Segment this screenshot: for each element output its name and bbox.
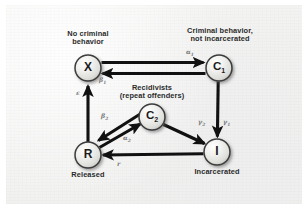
node-label-x: X xyxy=(78,60,98,74)
caption-incarcerated: Incarcerated xyxy=(185,168,249,176)
edge-c2-to-i xyxy=(164,125,205,144)
node-label-c2-sub: 2 xyxy=(154,116,158,123)
edge-c1-to-i xyxy=(217,82,218,137)
node-label-r-text: R xyxy=(84,147,93,161)
node-label-i-text: I xyxy=(215,144,218,158)
caption-no-criminal-behavior: No criminal behavior xyxy=(50,30,126,47)
rate-label-beta1: β1 xyxy=(99,76,106,85)
rate-label-alpha1: α1 xyxy=(186,48,194,57)
node-label-c2: C2 xyxy=(142,109,162,123)
node-label-x-text: X xyxy=(84,60,92,74)
caption-criminal-not-incarcerated: Criminal behavior, not incarcerated xyxy=(172,27,268,44)
rate-label-r: r xyxy=(117,160,120,167)
rate-label-alpha2: α2 xyxy=(123,134,131,143)
node-label-c1-sub: 1 xyxy=(221,67,225,74)
node-label-c2-text: C xyxy=(146,109,154,121)
rate-label-beta2: β2 xyxy=(101,112,108,121)
rate-label-epsilon: ε xyxy=(76,89,80,96)
node-label-c1: C1 xyxy=(209,60,229,74)
rate-label-gamma2: γ2 xyxy=(198,118,205,127)
rate-label-gamma1: γ1 xyxy=(223,118,230,127)
diagram-canvas: X C1 C2 R I No criminal behavior Crimina… xyxy=(0,0,308,210)
caption-released: Released xyxy=(60,171,116,179)
caption-recidivists: Recidivists (repeat offenders) xyxy=(106,84,198,101)
edge-i-to-r xyxy=(103,154,204,155)
node-label-c1-text: C xyxy=(213,60,221,72)
node-label-r: R xyxy=(78,147,98,161)
node-label-i: I xyxy=(207,144,227,158)
